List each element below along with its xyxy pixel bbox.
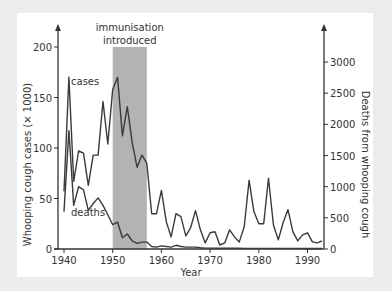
y2-axis-title: Deaths from whooping cough bbox=[360, 91, 371, 238]
x-tick-label: 1980 bbox=[246, 255, 271, 266]
chart: immunisationintroduced194019501960197019… bbox=[0, 0, 392, 291]
x-axis-title: Year bbox=[179, 267, 202, 278]
right-axis-arrow-icon bbox=[321, 24, 327, 31]
y-axis-title: Whooping cough cases (× 1000) bbox=[22, 83, 33, 247]
y-tick-label: 100 bbox=[33, 143, 52, 154]
y2-tick-label: 3000 bbox=[330, 57, 355, 68]
x-tick-label: 1950 bbox=[100, 255, 125, 266]
deaths-label: deaths bbox=[71, 207, 105, 218]
x-tick-label: 1940 bbox=[51, 255, 76, 266]
y2-tick-label: 0 bbox=[330, 244, 336, 255]
y-tick-label: 0 bbox=[46, 244, 52, 255]
y2-tick-label: 2000 bbox=[330, 119, 355, 130]
y-tick-label: 150 bbox=[33, 93, 52, 104]
y-tick-label: 200 bbox=[33, 42, 52, 53]
cases-label: cases bbox=[71, 76, 99, 87]
shaded-region-label: immunisation bbox=[96, 22, 164, 33]
series-line-cases bbox=[64, 77, 322, 245]
left-axis-arrow-icon bbox=[55, 24, 61, 31]
y2-tick-label: 1500 bbox=[330, 151, 355, 162]
x-tick-label: 1970 bbox=[197, 255, 222, 266]
y2-tick-label: 1000 bbox=[330, 182, 355, 193]
y2-tick-label: 500 bbox=[330, 213, 349, 224]
y2-tick-label: 2500 bbox=[330, 88, 355, 99]
x-tick-label: 1990 bbox=[295, 255, 320, 266]
x-tick-label: 1960 bbox=[149, 255, 174, 266]
y-tick-label: 50 bbox=[39, 194, 52, 205]
shaded-region-label: introduced bbox=[103, 35, 157, 46]
series-line-deaths bbox=[64, 131, 322, 249]
